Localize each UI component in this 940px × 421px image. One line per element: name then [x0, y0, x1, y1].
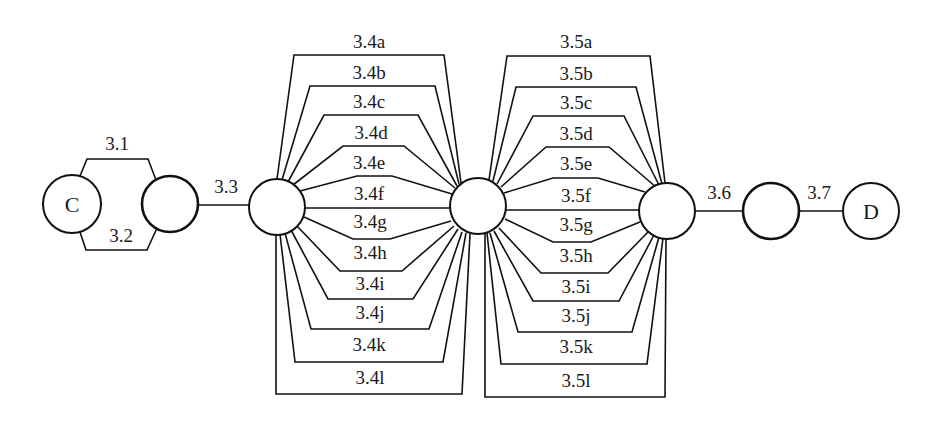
edge-label-3-4e: 3.4e	[353, 152, 385, 173]
nodes-layer: CD	[43, 175, 899, 239]
reliability-block-diagram: CD 3.13.23.33.4a3.4b3.4c3.4d3.4e3.4f3.4g…	[0, 0, 940, 421]
edge-label-3-5g: 3.5g	[559, 214, 593, 235]
edge-label-3-4k: 3.4k	[352, 334, 386, 355]
node-n3	[450, 178, 506, 234]
edge-label-3-4f: 3.4f	[354, 183, 385, 204]
edge-label-3-5a: 3.5a	[560, 31, 593, 52]
node-n2	[249, 179, 305, 235]
edge-label-3-4g: 3.4g	[353, 211, 387, 232]
edge-label-3-5h: 3.5h	[559, 245, 593, 266]
edge-label-3-4l: 3.4l	[355, 367, 384, 388]
node-n4	[639, 183, 695, 239]
edge-label-3-4i: 3.4i	[355, 273, 384, 294]
edge-label-3-5l: 3.5l	[561, 370, 590, 391]
edge-label-3-5i: 3.5i	[561, 276, 590, 297]
edge-label-3-4h: 3.4h	[353, 242, 387, 263]
edge-label-3-5c: 3.5c	[560, 92, 592, 113]
edge-label-3-5j: 3.5j	[561, 305, 590, 326]
edge-label-3-6: 3.6	[707, 182, 731, 203]
edge-label-3-7: 3.7	[807, 182, 831, 203]
edge-label-3-4a: 3.4a	[353, 31, 386, 52]
edge-label-3-4d: 3.4d	[354, 122, 388, 143]
edge-label-3-4b: 3.4b	[352, 62, 385, 83]
edge-label-3-4j: 3.4j	[355, 302, 384, 323]
edge-label-3-5e: 3.5e	[560, 153, 592, 174]
edge-label-3-5b: 3.5b	[559, 63, 592, 84]
edge-label-3-2: 3.2	[109, 225, 133, 246]
edge-label-3-1: 3.1	[105, 133, 129, 154]
node-n5	[743, 183, 799, 239]
edge-label-3-5d: 3.5d	[559, 123, 593, 144]
edge-label-3-3: 3.3	[214, 176, 238, 197]
edge-label-3-5f: 3.5f	[561, 185, 592, 206]
edge-label-3-4c: 3.4c	[353, 91, 385, 112]
edge-3-1	[80, 159, 156, 180]
node-label-c: C	[65, 192, 80, 217]
node-label-d: D	[863, 199, 879, 224]
edge-label-3-5k: 3.5k	[559, 336, 593, 357]
node-n1	[142, 176, 198, 232]
